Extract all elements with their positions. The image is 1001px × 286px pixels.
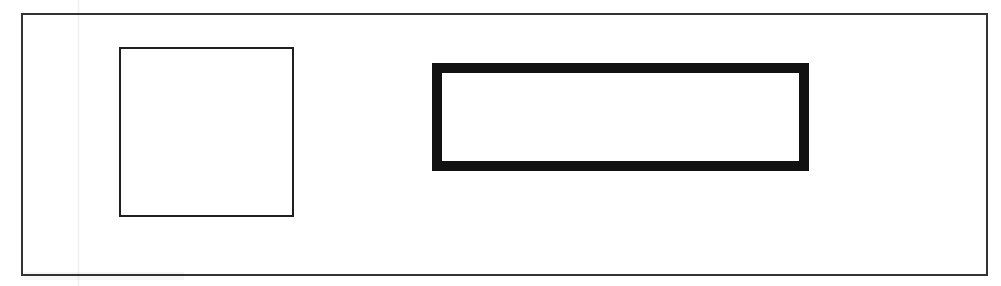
thin-square-shape [119,47,294,217]
figure-canvas [0,0,1001,286]
thick-rectangle-shape [432,63,809,171]
